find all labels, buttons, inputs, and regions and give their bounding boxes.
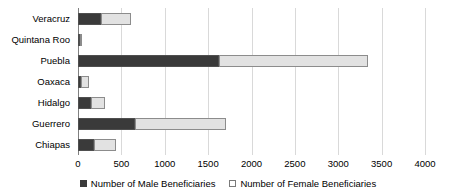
bar-row — [78, 8, 425, 29]
bar-segment-female[interactable] — [101, 13, 131, 25]
legend-item-female[interactable]: Number of Female Beneficiaries — [229, 178, 376, 189]
bar-row — [78, 71, 425, 92]
legend-label-female: Number of Female Beneficiaries — [240, 178, 376, 189]
bar-segment-male[interactable] — [78, 13, 101, 25]
bar-segment-male[interactable] — [78, 55, 219, 67]
hollow-square-icon — [229, 180, 236, 187]
bar-row — [78, 134, 425, 155]
category-label-veracruz: Veracruz — [0, 8, 74, 29]
bar-segment-female[interactable] — [80, 34, 82, 46]
bar-row — [78, 92, 425, 113]
tick-label-2500: 2500 — [284, 158, 305, 169]
gridline-4000 — [425, 8, 426, 155]
category-axis-labels: Veracruz Quintana Roo Puebla Oaxaca Hida… — [0, 8, 74, 155]
tick-label-3000: 3000 — [328, 158, 349, 169]
tick-label-0: 0 — [75, 158, 80, 169]
value-axis-tick-labels: 05001000150020002500300035004000 — [78, 158, 425, 172]
bar-row — [78, 113, 425, 134]
tick-label-500: 500 — [113, 158, 129, 169]
bar-segment-female[interactable] — [81, 76, 89, 88]
stacked-bar-chart: Veracruz Quintana Roo Puebla Oaxaca Hida… — [0, 0, 456, 196]
chart-legend: Number of Male Beneficiaries Number of F… — [0, 178, 456, 189]
category-label-chiapas: Chiapas — [0, 134, 74, 155]
tick-label-1000: 1000 — [154, 158, 175, 169]
bar-segment-female[interactable] — [135, 118, 226, 130]
plot-area — [78, 8, 425, 155]
legend-label-male: Number of Male Beneficiaries — [91, 178, 216, 189]
tick-label-4000: 4000 — [414, 158, 435, 169]
category-label-quintana-roo: Quintana Roo — [0, 29, 74, 50]
category-label-puebla: Puebla — [0, 50, 74, 71]
stacked-bar-oaxaca[interactable] — [78, 76, 89, 88]
stacked-bar-veracruz[interactable] — [78, 13, 131, 25]
category-label-oaxaca: Oaxaca — [0, 71, 74, 92]
tick-label-1500: 1500 — [198, 158, 219, 169]
stacked-bar-puebla[interactable] — [78, 55, 368, 67]
bar-rows — [78, 8, 425, 155]
tick-label-2000: 2000 — [241, 158, 262, 169]
bar-row — [78, 50, 425, 71]
bar-segment-female[interactable] — [219, 55, 368, 67]
bar-segment-female[interactable] — [91, 97, 105, 109]
stacked-bar-guerrero[interactable] — [78, 118, 226, 130]
bar-segment-male[interactable] — [78, 118, 135, 130]
stacked-bar-chiapas[interactable] — [78, 139, 116, 151]
filled-square-icon — [80, 180, 87, 187]
stacked-bar-hidalgo[interactable] — [78, 97, 105, 109]
bar-segment-female[interactable] — [94, 139, 116, 151]
bar-row — [78, 29, 425, 50]
category-label-hidalgo: Hidalgo — [0, 92, 74, 113]
category-label-guerrero: Guerrero — [0, 113, 74, 134]
bar-segment-male[interactable] — [78, 139, 94, 151]
bar-segment-male[interactable] — [78, 97, 91, 109]
tick-label-3500: 3500 — [371, 158, 392, 169]
legend-item-male[interactable]: Number of Male Beneficiaries — [80, 178, 216, 189]
stacked-bar-quintana-roo[interactable] — [78, 34, 82, 46]
